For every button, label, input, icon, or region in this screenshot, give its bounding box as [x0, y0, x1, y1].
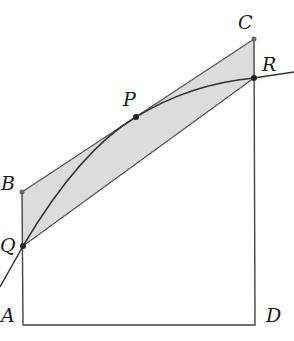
- point-P: [133, 114, 139, 120]
- label-Q: Q: [0, 234, 16, 256]
- point-B: [20, 190, 25, 195]
- label-C: C: [238, 11, 253, 33]
- label-P: P: [122, 88, 137, 110]
- label-B: B: [0, 172, 15, 194]
- point-C: [252, 37, 257, 42]
- label-A: A: [0, 304, 15, 326]
- geometry-diagram: A B C D P Q R: [0, 0, 294, 341]
- shaded-parallelogram-BCRQ: [22, 39, 254, 246]
- point-R: [251, 75, 257, 81]
- segment-QR: [23, 78, 254, 246]
- label-D: D: [265, 304, 281, 326]
- label-R: R: [261, 53, 276, 75]
- point-Q: [20, 243, 26, 249]
